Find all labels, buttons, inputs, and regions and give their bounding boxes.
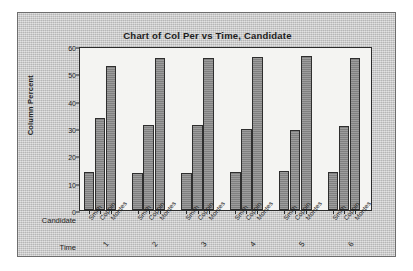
bar: [106, 66, 117, 210]
bar: [95, 118, 106, 210]
chart-title: Chart of Col Per vs Time, Candidate: [18, 30, 397, 41]
bar: [132, 173, 143, 210]
bar: [230, 172, 241, 210]
bar: [155, 58, 166, 210]
bar: [301, 56, 312, 210]
time-tick-label: 4: [248, 240, 258, 249]
row-header-time: Time: [24, 243, 76, 252]
bar: [192, 125, 203, 210]
bars-layer: [80, 48, 371, 210]
bar: [84, 172, 95, 210]
y-axis-title: Column Percent: [26, 75, 40, 135]
bar: [203, 58, 214, 210]
bar: [339, 126, 350, 210]
time-tick-label: 3: [199, 240, 209, 249]
bar: [143, 125, 154, 210]
time-tick-label: 6: [346, 240, 356, 249]
bar: [279, 171, 290, 210]
chart-figure: Chart of Col Per vs Time, Candidate Colu…: [0, 0, 413, 271]
y-tick-mark: [76, 212, 80, 213]
time-tick-label: 1: [101, 240, 111, 249]
bar: [328, 172, 339, 210]
plot-area: 0102030405060: [79, 47, 372, 211]
time-tick-label: 5: [297, 240, 307, 249]
bar: [241, 129, 252, 210]
chart-panel: Chart of Col Per vs Time, Candidate Colu…: [17, 12, 396, 257]
bar: [252, 57, 263, 210]
bar: [290, 130, 301, 210]
bar: [350, 58, 361, 210]
row-header-candidate: Candidate: [24, 216, 76, 225]
time-tick-label: 2: [150, 240, 160, 249]
bar: [181, 173, 192, 210]
